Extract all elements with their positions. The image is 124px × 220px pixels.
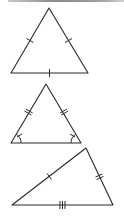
isosceles-triangle	[11, 84, 81, 143]
scalene-triangle	[12, 148, 113, 209]
side-tick-right	[65, 39, 72, 43]
equilateral-triangle	[11, 8, 88, 77]
side-tick-left	[47, 174, 52, 180]
side-tick-left	[27, 39, 34, 43]
triangles-diagram	[0, 0, 124, 220]
